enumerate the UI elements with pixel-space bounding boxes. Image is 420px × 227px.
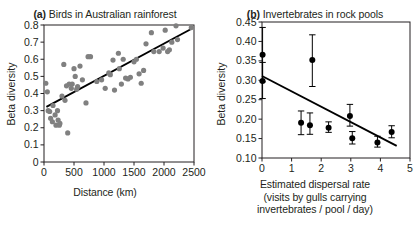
data-point [309,57,315,63]
data-point [112,87,117,92]
data-point [75,84,80,89]
data-point [119,81,124,86]
data-point [80,77,85,82]
data-point [326,125,332,131]
data-point [50,103,55,108]
data-point [139,81,144,86]
x-tick-label: 0 [259,162,265,174]
y-tick-label: 0.30 [236,74,257,86]
data-point [161,46,166,51]
y-tick-label: 0.20 [236,113,257,125]
x-tick-label: 1500 [122,166,146,178]
data-point [62,98,67,103]
data-point [69,86,74,91]
y-tick-label: 0.35 [236,54,257,66]
x-tick-label: 0 [41,166,47,178]
data-point [47,109,52,114]
data-point [260,52,266,58]
x-tick-label: 1 [289,162,295,174]
panel-b-x-axis-label: Estimated dispersal rate (visits by gull… [210,178,420,216]
y-tick-label: 0.25 [236,93,257,105]
regression-line [262,76,397,146]
data-point [175,37,180,42]
data-point [169,40,174,45]
data-point [307,122,313,128]
data-point [189,25,194,30]
data-point [110,58,115,63]
y-tick-label: 0.8 [24,19,39,31]
x-tick-label: 3 [348,162,354,174]
data-point [347,113,353,119]
x-tick-label: 2000 [152,166,176,178]
data-point [149,30,154,35]
y-tick-label: 0.5 [24,70,39,82]
figure-container: (a) Birds in Australian rainforest 00.10… [0,0,420,227]
data-point [260,78,266,84]
data-point [55,108,60,113]
data-point [77,64,82,69]
y-tick-label: 0.10 [236,152,257,164]
plot-frame [44,25,194,162]
data-point [121,57,126,62]
data-point [65,130,70,135]
y-tick-label: 0 [33,156,39,168]
data-point [61,62,66,67]
data-point [163,28,168,33]
y-tick-label: 0.40 [236,35,257,47]
data-point [374,139,380,145]
data-point [143,41,148,46]
x-tick-label: 1000 [92,166,116,178]
data-point [59,93,64,98]
x-tick-label: 5 [407,162,413,174]
data-point [99,77,104,82]
data-point [94,79,99,84]
data-point [116,51,121,56]
y-tick-label: 0.2 [24,121,39,133]
data-point [57,121,62,126]
data-point [71,66,76,71]
panel-a: (a) Birds in Australian rainforest 00.10… [0,0,210,227]
panel-b-x-axis-label-line-1: Estimated dispersal rate [210,178,420,191]
data-point [103,86,108,91]
panel-b-y-axis-label: Beta diversity [215,54,227,134]
data-point [151,49,156,54]
panel-a-y-axis-label: Beta diversity [5,54,17,134]
data-point [134,57,139,62]
plot-frame [262,22,410,158]
panel-b-x-axis-label-line-2: (visits by gulls carrying [210,191,420,204]
data-point [137,71,142,76]
data-point [83,100,88,105]
x-tick-label: 2 [318,162,324,174]
data-point [157,49,162,54]
data-point [349,135,355,141]
y-tick-label: 0.7 [24,36,39,48]
data-point [167,47,172,52]
x-tick-label: 500 [65,166,83,178]
data-point [141,68,146,73]
data-point [108,72,113,77]
y-tick-label: 0.4 [24,87,39,99]
y-tick-label: 0.6 [24,53,39,65]
data-point [70,81,75,86]
data-point [128,75,133,80]
data-point [389,129,395,135]
data-point [117,66,122,71]
panel-b: (b) Invertebrates in rock pools 0.100.15… [210,0,420,227]
y-tick-label: 0.3 [24,104,39,116]
panel-b-x-axis-label-line-3: invertebrates / pool / day) [210,203,420,216]
y-tick-label: 0.15 [236,132,257,144]
data-point [43,81,48,86]
data-point [298,120,304,126]
data-point [173,23,178,28]
data-point [88,54,93,59]
x-tick-label: 4 [377,162,383,174]
data-point [73,74,78,79]
data-point [45,89,50,94]
x-tick-label: 2500 [182,166,206,178]
panel-a-x-axis-label: Distance (km) [0,186,210,199]
y-tick-label: 0.45 [236,16,257,28]
y-tick-label: 0.1 [24,138,39,150]
